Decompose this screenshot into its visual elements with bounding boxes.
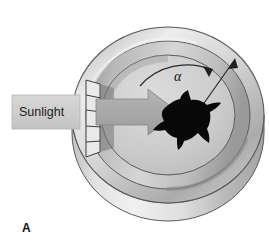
sunlight-bar: Sunlight [12,95,80,129]
orientation-cage-diagram: Sunlight α A [0,0,269,251]
sunlight-label: Sunlight [19,105,65,119]
figure-root: Sunlight α A [0,0,269,251]
angle-alpha-label: α [174,69,182,84]
panel-label-a: A [22,221,31,235]
